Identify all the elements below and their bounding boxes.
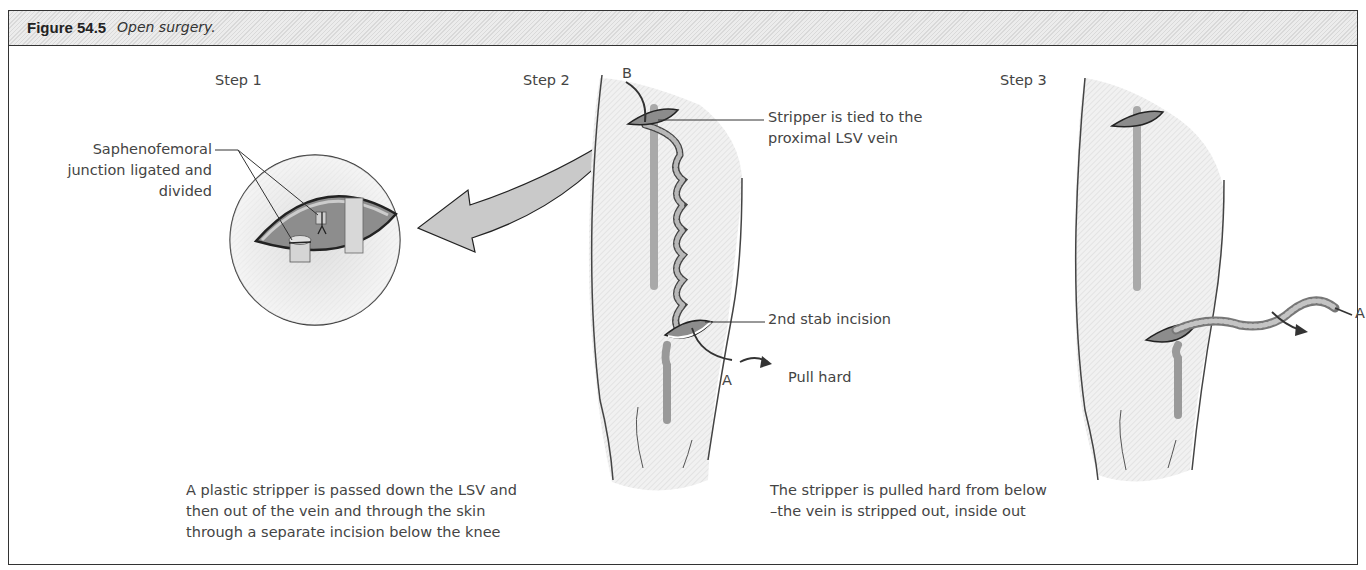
step3-leg — [1075, 78, 1352, 481]
step3-description: The stripper is pulled hard from below –… — [770, 480, 1047, 522]
marker-a-step3: A — [1355, 303, 1365, 324]
marker-a-step2: A — [722, 370, 732, 391]
marker-b: B — [622, 63, 632, 84]
step2-title: Step 2 — [523, 70, 570, 91]
saphenofemoral-label: Saphenofemoral junction ligated and divi… — [40, 139, 212, 202]
stab-incision-label: 2nd stab incision — [768, 309, 891, 330]
step1-magnified-view — [215, 150, 400, 325]
step2-description: A plastic stripper is passed down the LS… — [186, 480, 517, 543]
step1-title: Step 1 — [215, 70, 262, 91]
pull-hard-label: Pull hard — [788, 367, 851, 388]
step2-leg — [589, 75, 772, 491]
stripper-tied-label: Stripper is tied to the proximal LSV vei… — [768, 107, 922, 149]
step3-title: Step 3 — [1000, 70, 1047, 91]
